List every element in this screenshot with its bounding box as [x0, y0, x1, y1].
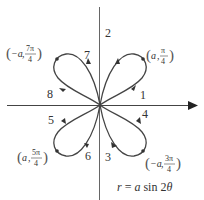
point-label-q3: ( a , 5π 4 ) — [17, 148, 48, 168]
point-q3 — [55, 149, 59, 153]
svg-text:7π: 7π — [26, 44, 34, 53]
svg-text:4: 4 — [161, 57, 165, 66]
svg-text:): ) — [176, 155, 181, 172]
svg-text:π: π — [161, 46, 165, 55]
svg-text:−a: −a — [11, 48, 23, 59]
x-axis-arrow-icon — [188, 101, 198, 110]
curve-label-3: 3 — [105, 150, 111, 164]
petal-q3 — [54, 105, 100, 156]
svg-text:): ) — [37, 45, 42, 62]
svg-text:4: 4 — [34, 159, 38, 168]
arrow-2-icon — [115, 58, 120, 64]
svg-text:4: 4 — [167, 165, 171, 174]
curve-label-1: 1 — [140, 88, 146, 102]
curve-label-8: 8 — [47, 87, 53, 101]
svg-text:a: a — [151, 50, 156, 61]
point-label-q1: ( a , π 4 ) — [146, 46, 174, 66]
svg-text:−a: −a — [150, 158, 162, 169]
svg-text:4: 4 — [28, 55, 32, 64]
curve-label-2: 2 — [105, 26, 111, 40]
point-label-q4: ( −a , 3π 4 ) — [145, 154, 181, 174]
four-leaved-rose-diagram: 1 2 3 4 5 6 7 8 ( a , π 4 ) ( −a , 3π 4 … — [0, 0, 204, 200]
svg-text:3π: 3π — [165, 154, 173, 163]
svg-text:,: , — [157, 50, 160, 61]
petal-q2 — [54, 54, 100, 105]
svg-text:): ) — [43, 149, 48, 166]
svg-text:): ) — [169, 47, 174, 64]
svg-text:5π: 5π — [32, 148, 40, 157]
point-q1 — [141, 57, 145, 61]
equation-caption: r = a sin 2θ — [117, 180, 172, 194]
curve-label-7: 7 — [84, 48, 90, 62]
arrow-8-icon — [59, 88, 66, 92]
curve-label-6: 6 — [85, 149, 91, 163]
curve-label-5: 5 — [48, 113, 54, 127]
point-q2 — [55, 57, 59, 61]
svg-text:,: , — [28, 152, 31, 163]
point-label-q2: ( −a , 7π 4 ) — [6, 44, 42, 64]
curve-label-4: 4 — [142, 107, 148, 121]
point-q4 — [141, 149, 145, 153]
svg-text:,: , — [22, 48, 25, 59]
petal-q4 — [100, 105, 146, 156]
svg-text:a: a — [22, 152, 27, 163]
arrow-4-icon — [136, 117, 141, 124]
svg-text:,: , — [161, 158, 164, 169]
arrow-5-icon — [61, 118, 66, 124]
